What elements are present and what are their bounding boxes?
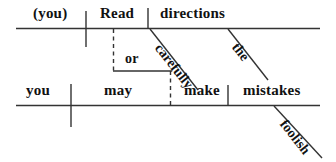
word-may: may bbox=[104, 83, 132, 98]
word-make: make bbox=[184, 83, 220, 98]
sentence-diagram: (you) Read directions carefully the or y… bbox=[0, 0, 336, 162]
word-you-implied: (you) bbox=[33, 6, 67, 21]
word-directions: directions bbox=[160, 6, 225, 21]
word-you: you bbox=[26, 83, 50, 98]
word-or: or bbox=[125, 52, 139, 66]
word-read: Read bbox=[100, 6, 134, 21]
word-mistakes: mistakes bbox=[243, 83, 300, 98]
